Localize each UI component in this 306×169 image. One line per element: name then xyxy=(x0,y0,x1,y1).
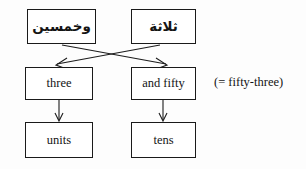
node-tens-label: tens xyxy=(153,133,173,148)
node-units-label: units xyxy=(47,133,71,148)
edge-three-to-units xyxy=(55,100,63,121)
edge-and-fifty-to-tens xyxy=(159,100,167,121)
node-tens: tens xyxy=(131,122,196,158)
diagram-canvas: وخمسين ثلاثة three and fifty units tens … xyxy=(0,0,306,169)
node-and-fifty-label: and fifty xyxy=(142,76,185,91)
node-thalatha: ثلاثة xyxy=(131,9,196,44)
edge-wakhamsin-to-and-fifty xyxy=(62,45,167,68)
node-three: three xyxy=(25,67,93,100)
node-wakhamsin-label: وخمسين xyxy=(32,18,91,34)
node-three-label: three xyxy=(47,76,72,91)
node-units: units xyxy=(25,122,93,158)
node-thalatha-label: ثلاثة xyxy=(149,18,178,34)
equivalence-annotation: (= fifty-three) xyxy=(214,75,283,90)
node-wakhamsin: وخمسين xyxy=(27,9,96,44)
node-and-fifty: and fifty xyxy=(131,67,196,100)
edge-thalatha-to-three xyxy=(56,45,160,68)
